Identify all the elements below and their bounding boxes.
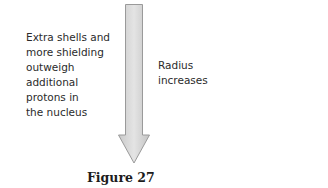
radius-increases-label: Radius increases xyxy=(158,58,238,88)
right-label-line: increases xyxy=(158,73,238,88)
left-label-line: Extra shells and xyxy=(26,30,116,45)
left-label-line: the nucleus xyxy=(26,105,116,120)
right-label-line: Radius xyxy=(158,58,238,73)
left-label-line: more shielding xyxy=(26,45,116,60)
left-label-line: additional xyxy=(26,75,116,90)
down-arrow-icon xyxy=(118,4,150,164)
shielding-explanation-label: Extra shells and more shielding outweigh… xyxy=(26,30,116,120)
left-label-line: protons in xyxy=(26,90,116,105)
figure-caption: Figure 27 xyxy=(87,170,155,185)
left-label-line: outweigh xyxy=(26,60,116,75)
